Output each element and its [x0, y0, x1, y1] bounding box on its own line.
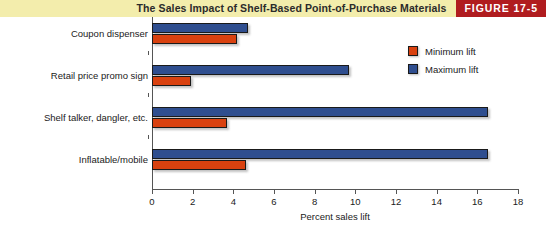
bar-minimum-lift [152, 118, 227, 128]
x-axis-tick [477, 189, 478, 194]
y-axis-minor-tick [148, 51, 149, 55]
legend-item-maximum-lift: Maximum lift [408, 63, 538, 75]
category-label: Retail price promo sign [51, 70, 148, 81]
bar-minimum-lift [152, 76, 191, 86]
bar-maximum-lift [152, 65, 349, 75]
x-axis-tick [152, 189, 153, 194]
x-axis-tick-label: 10 [350, 196, 361, 207]
figure-header-band: The Sales Impact of Shelf-Based Point-of… [0, 0, 546, 17]
y-axis-minor-tick [148, 93, 149, 97]
x-axis-tick-label: 4 [231, 196, 236, 207]
x-axis-tick [193, 189, 194, 194]
x-axis-tick-label: 12 [391, 196, 402, 207]
x-axis-line [152, 189, 518, 190]
x-axis-tick-label: 6 [271, 196, 276, 207]
x-axis-tick-label: 14 [431, 196, 442, 207]
bar-maximum-lift [152, 23, 248, 33]
x-axis-tick-label: 18 [513, 196, 524, 207]
legend-swatch-minimum-lift [408, 46, 418, 56]
x-axis-tick [396, 189, 397, 194]
x-axis-tick-label: 2 [190, 196, 195, 207]
legend-label-minimum-lift: Minimum lift [425, 46, 476, 57]
chart-legend: Minimum lift Maximum lift [408, 45, 538, 81]
x-axis-tick [518, 189, 519, 194]
chart-plot-area: Coupon dispenserRetail price promo signS… [0, 17, 546, 231]
x-axis-tick [437, 189, 438, 194]
x-axis-tick [233, 189, 234, 194]
bar-minimum-lift [152, 34, 237, 44]
x-axis-tick [315, 189, 316, 194]
bar-maximum-lift [152, 149, 488, 159]
legend-label-maximum-lift: Maximum lift [425, 64, 478, 75]
bar-maximum-lift [152, 107, 488, 117]
category-label: Shelf talker, dangler, etc. [44, 112, 148, 123]
x-axis-tick-label: 8 [312, 196, 317, 207]
y-axis-minor-tick [148, 135, 149, 139]
x-axis-tick-label: 16 [472, 196, 483, 207]
category-axis-labels: Coupon dispenserRetail price promo signS… [0, 17, 148, 231]
legend-swatch-maximum-lift [408, 64, 418, 74]
x-axis-tick-label: 0 [149, 196, 154, 207]
category-label: Inflatable/mobile [79, 154, 148, 165]
category-label: Coupon dispenser [71, 28, 148, 39]
x-axis-tick [355, 189, 356, 194]
figure-container: The Sales Impact of Shelf-Based Point-of… [0, 0, 546, 231]
x-axis-tick [274, 189, 275, 194]
figure-title: The Sales Impact of Shelf-Based Point-of… [137, 0, 456, 17]
x-axis-title: Percent sales lift [152, 211, 518, 222]
figure-number-badge: FIGURE 17-5 [456, 0, 546, 17]
bar-minimum-lift [152, 160, 246, 170]
legend-item-minimum-lift: Minimum lift [408, 45, 538, 57]
